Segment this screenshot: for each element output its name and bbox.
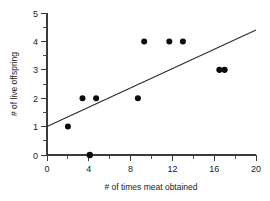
- chart-figure: 0 4 8 12 16 20 0 1 2 3 4 5 # of times me…: [0, 0, 270, 201]
- data-point: [135, 95, 141, 101]
- y-tick-label-2: 2: [33, 94, 38, 104]
- y-tick-label-3: 3: [33, 65, 38, 75]
- x-tick-label-8: 8: [128, 164, 133, 174]
- y-tick-labels: 0 1 2 3 4 5: [33, 9, 38, 161]
- y-tick-label-5: 5: [33, 9, 38, 19]
- data-point: [222, 67, 228, 73]
- x-tick-label-4: 4: [86, 164, 91, 174]
- scatter-plot: 0 4 8 12 16 20 0 1 2 3 4 5 # of times me…: [0, 0, 270, 201]
- data-point: [80, 95, 86, 101]
- x-axis-title: # of times meat obtained: [104, 182, 197, 192]
- y-axis-title: # of live offspring: [9, 52, 19, 116]
- x-tick-labels: 0 4 8 12 16 20: [44, 164, 261, 174]
- data-point: [93, 95, 99, 101]
- axes-group: [47, 13, 256, 155]
- x-axis-minor-ticks: [68, 155, 235, 159]
- x-tick-label-12: 12: [167, 164, 177, 174]
- data-point: [87, 152, 93, 158]
- data-points-group: [65, 38, 228, 158]
- data-point: [141, 38, 147, 44]
- data-point: [65, 124, 71, 130]
- x-tick-label-20: 20: [251, 164, 261, 174]
- y-tick-label-4: 4: [33, 37, 38, 47]
- data-point: [166, 38, 172, 44]
- y-axis-minor-ticks: [43, 27, 47, 141]
- trend-line: [47, 30, 256, 127]
- x-tick-label-0: 0: [44, 164, 49, 174]
- data-point: [180, 38, 186, 44]
- y-tick-label-0: 0: [33, 151, 38, 161]
- x-tick-label-16: 16: [209, 164, 219, 174]
- y-tick-label-1: 1: [33, 122, 38, 132]
